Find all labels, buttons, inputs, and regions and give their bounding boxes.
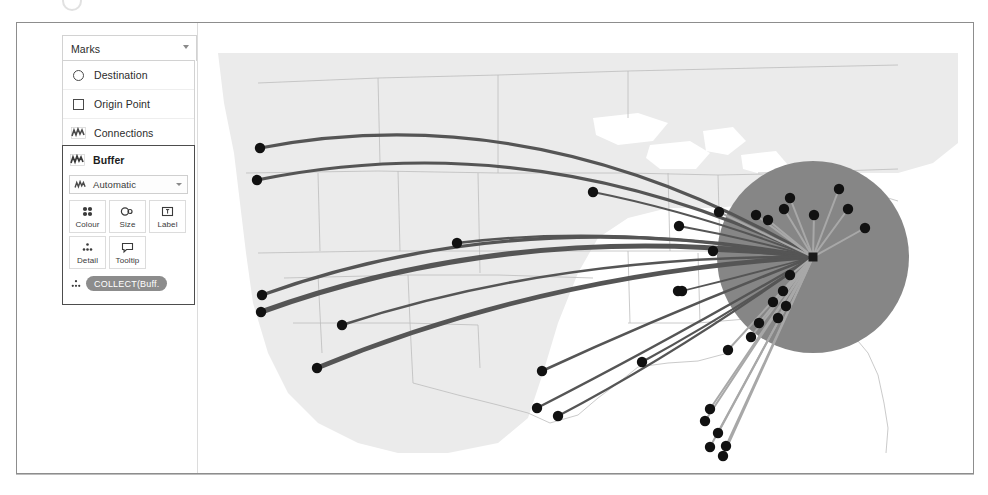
screenshot-root: Marks Destination Origin Point [0,0,988,495]
destination-mark [637,357,647,367]
detail-shelf-button[interactable]: Detail [69,236,106,269]
mark-layer-origin-point[interactable]: Origin Point [63,90,194,119]
destination-mark [773,313,783,323]
destination-mark [779,204,789,214]
line-map-mark-icon [73,176,88,193]
destination-mark [785,193,795,203]
tooltip-shelf-button[interactable]: Tooltip [109,236,146,269]
destination-mark [778,286,788,296]
mark-layer-connections[interactable]: Connections [63,119,194,147]
scan-artifact [62,0,82,11]
shelf-label: Colour [75,220,99,229]
label-icon [161,204,174,219]
destination-mark [809,210,819,220]
destination-mark [714,207,724,217]
chevron-down-icon[interactable] [176,183,182,186]
chevron-down-icon[interactable] [183,45,189,49]
mark-layer-label: Origin Point [94,98,150,110]
label-shelf-button[interactable]: Label [149,200,186,233]
marks-card-header[interactable]: Marks [62,35,197,61]
tooltip-icon [121,240,134,255]
detail-pill-row: COLLECT(Buff. [69,275,190,292]
destination-mark [256,307,266,317]
map-canvas [198,23,972,473]
destination-mark [713,428,723,438]
buffer-layer-header[interactable]: Buffer [63,146,194,173]
marks-card: Marks Destination Origin Point [62,35,195,473]
destination-mark [705,404,715,414]
mark-layer-destination[interactable]: Destination [63,61,194,90]
field-pill-label: COLLECT(Buff. [94,279,159,289]
destination-mark [746,332,756,342]
mark-shelf-buttons: Colour Size [69,200,190,269]
destination-mark [252,175,262,185]
destination-mark [588,187,598,197]
mark-type-dropdown[interactable]: Automatic [69,175,188,194]
destination-mark [337,320,347,330]
destination-mark [312,363,322,373]
marks-card-title: Marks [63,43,100,55]
square-mark-icon [70,96,87,113]
colour-palette-icon [81,204,94,219]
shelf-label: Label [157,220,177,229]
destination-mark [781,301,791,311]
destination-mark [700,416,710,426]
detail-icon [81,240,94,255]
destination-mark [843,204,853,214]
destination-mark [553,411,563,421]
line-map-mark-icon [70,125,87,142]
destination-mark [705,442,715,452]
destination-mark [532,403,542,413]
shelf-label: Size [120,220,136,229]
colour-shelf-button[interactable]: Colour [69,200,106,233]
destination-mark [754,318,764,328]
destination-mark [721,441,731,451]
mark-type-value: Automatic [93,179,136,190]
destination-mark [768,297,778,307]
destination-mark [674,221,684,231]
size-shelf-button[interactable]: Size [109,200,146,233]
shelf-label: Detail [77,256,98,265]
destination-mark [763,215,773,225]
destination-mark [860,223,870,233]
circle-mark-icon [70,67,87,84]
destination-mark [257,290,267,300]
destination-mark [718,451,728,461]
destination-mark [751,210,761,220]
destination-mark [673,286,683,296]
detail-icon [69,278,83,290]
buffer-layer-title: Buffer [93,154,125,166]
destination-mark [537,366,547,376]
active-mark-layer-buffer: Buffer Automatic [62,145,195,305]
destination-mark [708,246,718,256]
mark-layer-list: Destination Origin Point Conn [62,60,195,148]
destination-mark [255,143,265,153]
mark-layer-label: Destination [94,69,148,81]
visualisation-window: Marks Destination Origin Point [16,22,974,474]
field-pill-collect-buffer[interactable]: COLLECT(Buff. [86,276,167,291]
destination-mark [452,238,462,248]
destination-mark [785,270,795,280]
shelf-label: Tooltip [116,256,140,265]
line-map-mark-icon [69,151,86,168]
size-icon [120,204,135,219]
destination-mark [834,184,844,194]
origin-point-mark [809,253,818,262]
mark-layer-label: Connections [94,127,153,139]
map-viewport[interactable] [198,23,972,473]
destination-mark [723,345,733,355]
